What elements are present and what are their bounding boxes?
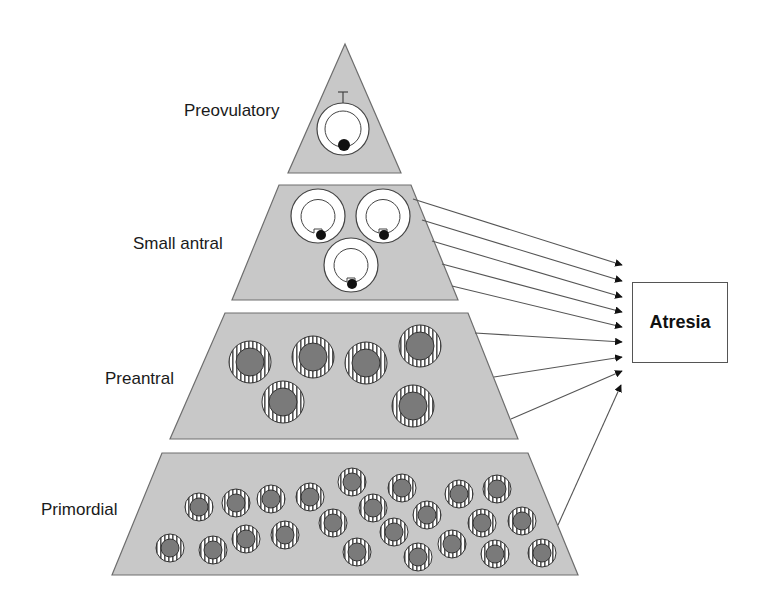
primordial-follicle	[388, 474, 416, 502]
primordial-follicle	[468, 509, 496, 537]
arrow-small-antral	[422, 220, 622, 281]
primordial-follicle	[483, 475, 511, 503]
arrow-preantral	[511, 371, 622, 419]
preantral-follicle	[392, 385, 434, 427]
preantral-follicle	[262, 381, 304, 423]
arrow-small-antral	[413, 199, 622, 265]
primordial-follicle	[380, 518, 408, 546]
preantral-follicle	[345, 342, 387, 384]
tier-label-preantral: Preantral	[105, 369, 174, 389]
primordial-follicle	[508, 507, 536, 535]
primordial-follicle	[185, 493, 213, 521]
primordial-follicle	[413, 501, 441, 529]
preantral-follicle	[292, 336, 334, 378]
atresia-label: Atresia	[649, 312, 710, 333]
primordial-follicle	[257, 485, 285, 513]
antral-follicle	[324, 238, 378, 292]
primordial-follicle	[232, 525, 260, 553]
preantral-follicle	[399, 325, 441, 367]
tier-preovulatory	[288, 44, 401, 173]
antral-follicle	[291, 189, 345, 243]
tier-preantral	[170, 313, 518, 439]
primordial-follicle	[296, 483, 324, 511]
antral-follicle	[356, 189, 410, 243]
primordial-follicle	[445, 480, 473, 508]
tier-label-primordial: Primordial	[41, 500, 118, 520]
primordial-follicle	[528, 539, 556, 567]
primordial-follicle	[319, 509, 347, 537]
primordial-follicle	[222, 489, 250, 517]
tier-label-preovulatory: Preovulatory	[184, 101, 279, 121]
tier-label-small-antral: Small antral	[133, 234, 223, 254]
arrow-small-antral	[452, 286, 622, 327]
primordial-follicle	[271, 521, 299, 549]
primordial-follicle	[359, 494, 387, 522]
primordial-follicle	[438, 530, 466, 558]
primordial-follicle	[404, 543, 432, 571]
arrow-preantral	[475, 333, 622, 342]
primordial-follicle	[338, 468, 366, 496]
arrow-primordial	[558, 385, 621, 525]
primordial-follicle	[199, 536, 227, 564]
preantral-follicle	[229, 341, 271, 383]
atresia-box: Atresia	[632, 282, 728, 363]
primordial-follicle	[156, 534, 184, 562]
tier-primordial	[112, 453, 578, 575]
primordial-follicle	[343, 538, 371, 566]
primordial-follicle	[481, 540, 509, 568]
arrow-preantral	[494, 357, 622, 377]
